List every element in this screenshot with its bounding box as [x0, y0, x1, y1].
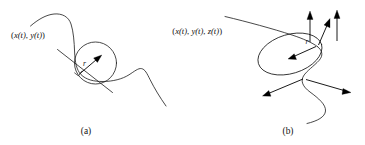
panel-a: r (x(t), y(t)) (a) — [11, 14, 166, 137]
figure-container: r (x(t), y(t)) (a) — [0, 0, 365, 145]
normal-arrow-down-right — [306, 80, 351, 95]
normal-arrow-diagonal — [319, 19, 331, 46]
normal-arrow-down-left — [263, 79, 304, 96]
curve-label-b: (x(t), y(t), z(t)) — [172, 26, 222, 36]
tangent-line — [58, 50, 113, 93]
radius-arrow-b — [288, 47, 316, 60]
osculating-disk — [253, 26, 328, 83]
figure-canvas: r (x(t), y(t)) (a) — [0, 0, 365, 145]
panel-b: r (x(t), y(t), z(t)) (b) — [172, 10, 351, 137]
radius-label-a: r — [83, 59, 86, 68]
caption-b: (b) — [283, 126, 294, 137]
osculating-circle — [75, 42, 117, 84]
normal-arrow-up-right — [334, 10, 340, 41]
caption-a: (a) — [81, 126, 91, 137]
radius-label-b: r — [306, 37, 309, 46]
curve-label-a: (x(t), y(t)) — [11, 30, 45, 40]
space-curve-upper — [225, 17, 318, 47]
space-curve-lower — [302, 47, 325, 124]
